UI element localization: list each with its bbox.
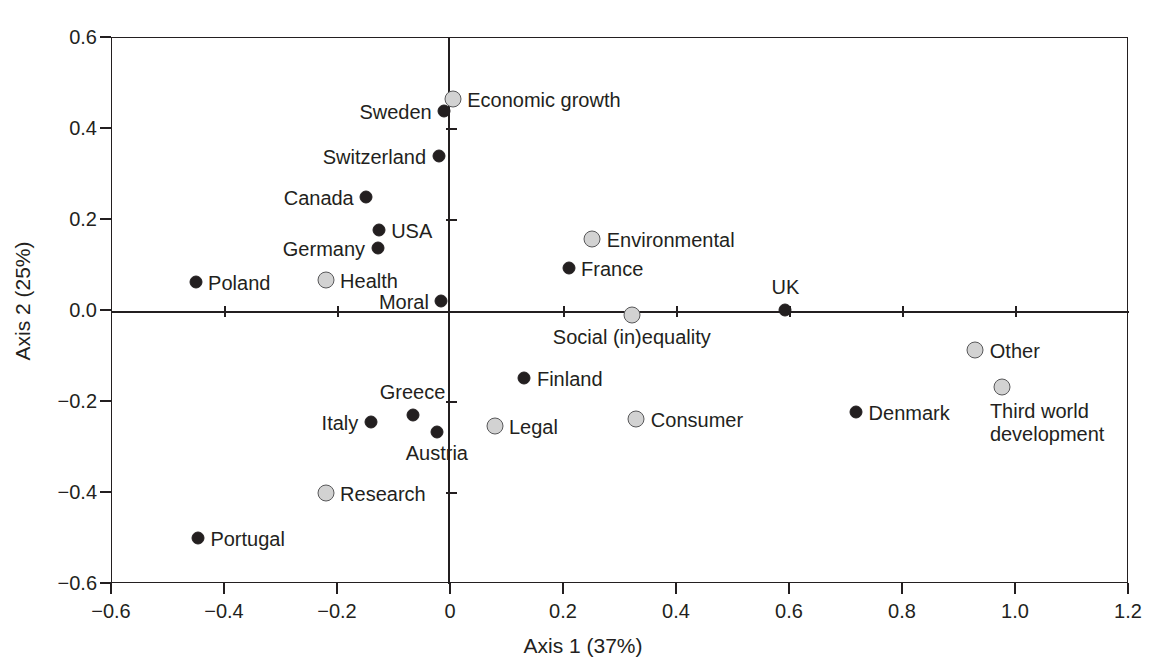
data-point-legal bbox=[486, 417, 503, 434]
y-tick bbox=[100, 309, 111, 311]
data-point-consumer bbox=[628, 410, 645, 427]
x-tick bbox=[901, 583, 903, 594]
data-point-usa bbox=[372, 224, 385, 237]
x-tick bbox=[110, 583, 112, 594]
y-tick bbox=[100, 127, 111, 129]
x-tick bbox=[336, 583, 338, 594]
y-tick bbox=[100, 218, 111, 220]
y-tick-label: 0.0 bbox=[25, 299, 97, 322]
data-point-portugal bbox=[191, 531, 204, 544]
x-tick bbox=[788, 583, 790, 594]
point-label-environmental: Environmental bbox=[607, 229, 735, 252]
data-point-greece bbox=[406, 408, 419, 421]
data-point-italy bbox=[364, 415, 377, 428]
point-label-social-inequality: Social (in)equality bbox=[553, 326, 711, 349]
x-tick-label: 0 bbox=[444, 600, 455, 623]
point-label-sweden: Sweden bbox=[359, 101, 431, 124]
chart-page: SwedenSwitzerlandCanadaUSAGermanyPolandM… bbox=[0, 0, 1166, 671]
data-point-france bbox=[562, 261, 575, 274]
data-point-uk bbox=[779, 303, 792, 316]
data-point-other bbox=[967, 341, 984, 358]
y-zero-axis bbox=[448, 38, 450, 584]
point-label-switzerland: Switzerland bbox=[323, 146, 426, 169]
x-tick-label: 0.2 bbox=[549, 600, 577, 623]
y-tick-label: 0.4 bbox=[25, 117, 97, 140]
data-point-third-world-development bbox=[993, 379, 1010, 396]
x-tick-label: −0.6 bbox=[91, 600, 130, 623]
data-point-switzerland bbox=[432, 150, 445, 163]
x-tick bbox=[675, 583, 677, 594]
plot-frame: SwedenSwitzerlandCanadaUSAGermanyPolandM… bbox=[111, 37, 1128, 583]
y-tick-label: 0.2 bbox=[25, 208, 97, 231]
y-tick bbox=[100, 491, 111, 493]
x-tick-label: −0.4 bbox=[204, 600, 243, 623]
y-tick bbox=[100, 582, 111, 584]
x-tick bbox=[1014, 583, 1016, 594]
data-point-environmental bbox=[584, 231, 601, 248]
point-label-greece: Greece bbox=[380, 382, 446, 405]
point-label-usa: USA bbox=[391, 220, 432, 243]
point-label-finland: Finland bbox=[537, 368, 603, 391]
data-point-poland bbox=[189, 276, 202, 289]
x-tick-inner bbox=[224, 306, 226, 317]
x-tick-label: 0.6 bbox=[775, 600, 803, 623]
point-label-other: Other bbox=[990, 339, 1040, 362]
point-label-poland: Poland bbox=[208, 272, 270, 295]
point-label-research: Research bbox=[340, 483, 426, 506]
x-axis-title: Axis 1 (37%) bbox=[0, 634, 1166, 658]
point-label-portugal: Portugal bbox=[210, 527, 285, 550]
point-label-legal: Legal bbox=[509, 415, 558, 438]
point-label-france: France bbox=[581, 257, 643, 280]
x-tick-inner bbox=[1015, 306, 1017, 317]
point-label-uk: UK bbox=[772, 277, 800, 300]
y-tick bbox=[100, 36, 111, 38]
point-label-austria: Austria bbox=[406, 442, 468, 465]
y-tick-label: −0.2 bbox=[25, 390, 97, 413]
data-point-economic-growth bbox=[444, 91, 461, 108]
x-tick bbox=[449, 583, 451, 594]
y-tick bbox=[100, 400, 111, 402]
data-point-research bbox=[317, 485, 334, 502]
x-tick bbox=[223, 583, 225, 594]
x-tick-label: 0.8 bbox=[888, 600, 916, 623]
y-tick-inner bbox=[446, 401, 457, 403]
data-point-denmark bbox=[850, 406, 863, 419]
data-point-canada bbox=[360, 191, 373, 204]
point-label-consumer: Consumer bbox=[651, 409, 743, 432]
y-tick-label: 0.6 bbox=[25, 26, 97, 49]
point-label-third-world-development: Third world development bbox=[990, 400, 1105, 445]
data-point-austria bbox=[430, 426, 443, 439]
x-tick-label: 1.2 bbox=[1114, 600, 1142, 623]
x-tick bbox=[562, 583, 564, 594]
x-tick-inner bbox=[337, 306, 339, 317]
x-tick-inner bbox=[676, 306, 678, 317]
x-tick-label: 1.0 bbox=[1001, 600, 1029, 623]
y-tick-inner bbox=[446, 128, 457, 130]
point-label-italy: Italy bbox=[322, 411, 359, 434]
point-label-health: Health bbox=[340, 270, 398, 293]
y-tick-label: −0.6 bbox=[25, 572, 97, 595]
y-tick-label: −0.4 bbox=[25, 481, 97, 504]
y-tick-inner bbox=[446, 492, 457, 494]
point-label-moral: Moral bbox=[379, 290, 429, 313]
data-point-finland bbox=[518, 372, 531, 385]
point-label-canada: Canada bbox=[284, 187, 354, 210]
data-point-moral bbox=[435, 294, 448, 307]
point-label-germany: Germany bbox=[283, 238, 365, 261]
data-point-social-inequality bbox=[623, 306, 640, 323]
data-point-health bbox=[317, 272, 334, 289]
x-tick-inner bbox=[563, 306, 565, 317]
point-label-economic-growth: Economic growth bbox=[467, 89, 620, 112]
x-tick-inner bbox=[902, 306, 904, 317]
x-zero-axis bbox=[112, 311, 1129, 313]
x-tick-label: 0.4 bbox=[662, 600, 690, 623]
x-tick bbox=[1127, 583, 1129, 594]
x-tick-label: −0.2 bbox=[317, 600, 356, 623]
data-point-germany bbox=[371, 242, 384, 255]
y-axis-title: Axis 2 (25%) bbox=[11, 171, 35, 431]
point-label-denmark: Denmark bbox=[869, 402, 950, 425]
y-tick-inner bbox=[446, 219, 457, 221]
